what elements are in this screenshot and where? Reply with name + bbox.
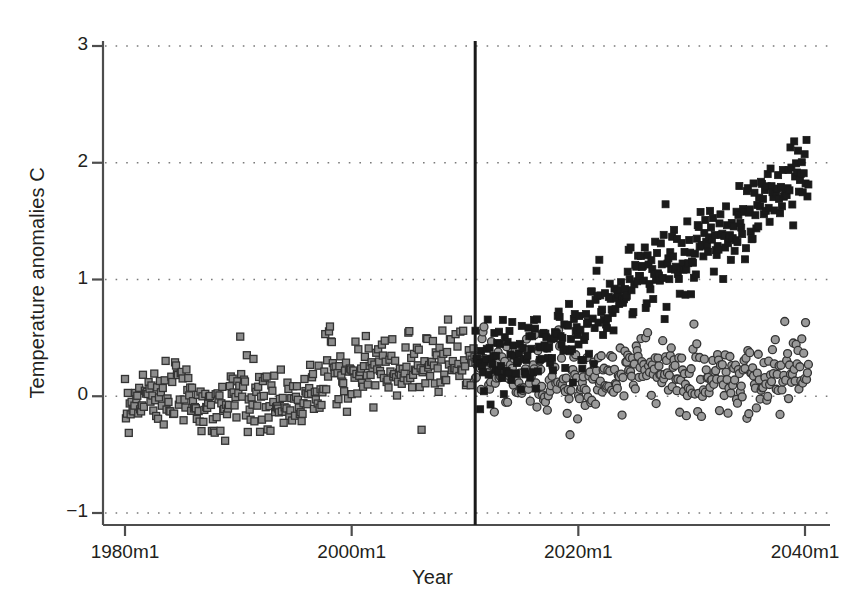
- temperature-anomalies-scatter-chart: Temperature anomalies C Year 3210−1 1980…: [0, 0, 865, 612]
- data-point: [671, 226, 678, 233]
- data-point: [690, 320, 698, 328]
- data-point: [486, 344, 493, 351]
- data-point: [140, 403, 147, 410]
- data-point: [340, 380, 347, 387]
- data-point: [627, 244, 634, 251]
- data-point: [504, 398, 512, 406]
- data-point: [439, 327, 446, 334]
- data-point: [367, 371, 374, 378]
- data-point: [785, 395, 793, 403]
- data-point: [786, 187, 793, 194]
- data-point: [418, 426, 425, 433]
- data-point: [364, 381, 371, 388]
- data-point: [590, 361, 597, 368]
- data-point: [443, 377, 450, 384]
- data-point: [583, 311, 590, 318]
- data-point: [766, 218, 773, 225]
- data-point: [624, 268, 631, 275]
- data-point: [599, 306, 606, 313]
- data-point: [162, 357, 169, 364]
- data-point: [269, 387, 276, 394]
- data-point: [460, 327, 467, 334]
- data-point: [263, 373, 270, 380]
- data-point: [742, 256, 749, 263]
- data-point: [715, 407, 723, 415]
- data-point: [562, 364, 569, 371]
- data-point: [566, 300, 573, 307]
- data-point: [239, 393, 246, 400]
- data-point: [582, 333, 589, 340]
- data-point: [518, 322, 525, 329]
- data-point: [800, 170, 807, 177]
- data-point: [754, 350, 762, 358]
- data-point: [207, 401, 214, 408]
- data-point: [381, 337, 388, 344]
- data-point: [125, 429, 132, 436]
- data-point: [746, 349, 754, 357]
- data-point: [309, 371, 316, 378]
- data-point: [549, 355, 556, 362]
- x-axis-title: Year: [0, 566, 865, 589]
- data-point: [139, 371, 146, 378]
- data-point: [777, 210, 784, 217]
- data-point: [237, 333, 244, 340]
- data-point: [675, 275, 682, 282]
- data-point: [134, 392, 141, 399]
- data-point: [528, 345, 535, 352]
- data-point: [265, 414, 272, 421]
- data-point: [692, 271, 699, 278]
- data-point: [318, 401, 325, 408]
- data-point: [687, 365, 695, 373]
- data-point: [700, 355, 708, 363]
- data-point: [280, 419, 287, 426]
- data-point: [493, 352, 500, 359]
- data-point: [801, 151, 808, 158]
- data-point: [778, 203, 785, 210]
- data-point: [711, 232, 718, 239]
- series-historical-points: [122, 316, 479, 444]
- y-tick-label: 2: [40, 150, 88, 172]
- data-point: [323, 386, 330, 393]
- data-point: [251, 418, 258, 425]
- data-point: [392, 357, 399, 364]
- data-point: [243, 352, 250, 359]
- data-point: [526, 397, 534, 405]
- data-point: [519, 345, 526, 352]
- data-point: [804, 193, 811, 200]
- data-point: [618, 279, 625, 286]
- data-point: [569, 379, 576, 386]
- data-point: [579, 365, 586, 372]
- data-point: [796, 363, 804, 371]
- y-tick-label: 0: [40, 383, 88, 405]
- data-point: [365, 345, 372, 352]
- data-point: [231, 402, 238, 409]
- data-point: [804, 360, 812, 368]
- data-point: [609, 353, 617, 361]
- data-point: [183, 366, 190, 373]
- data-point: [778, 386, 786, 394]
- data-point: [513, 370, 520, 377]
- data-point: [277, 366, 284, 373]
- data-point: [559, 334, 566, 341]
- data-point: [752, 212, 759, 219]
- data-point: [565, 395, 573, 403]
- data-point: [352, 338, 359, 345]
- data-point: [533, 316, 540, 323]
- data-point: [707, 224, 714, 231]
- data-point: [723, 203, 730, 210]
- data-point: [517, 386, 524, 393]
- x-tick-label: 2020m1: [508, 541, 648, 563]
- data-point: [406, 328, 413, 335]
- data-point: [620, 392, 628, 400]
- x-tick-label: 2040m1: [735, 541, 865, 563]
- data-point: [429, 338, 436, 345]
- data-point: [736, 183, 743, 190]
- data-point: [422, 380, 429, 387]
- data-point: [454, 343, 461, 350]
- y-tick-label: 3: [40, 33, 88, 55]
- data-point: [759, 195, 766, 202]
- data-point: [731, 247, 738, 254]
- data-point: [462, 363, 469, 370]
- data-point: [576, 312, 583, 319]
- data-point: [477, 406, 484, 413]
